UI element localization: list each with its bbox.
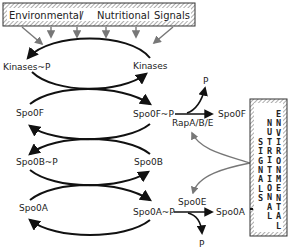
spo0e-dephosphorylation: P Spo0E Spo0A	[174, 197, 246, 249]
signal-arrow-icon	[22, 27, 42, 44]
node-spo0f-p: Spo0F~P	[133, 109, 174, 119]
banner-word-environmental: Environmental	[9, 10, 82, 21]
signal-arrow-icon	[154, 27, 173, 43]
arc-spo0f-return	[30, 124, 150, 139]
node-kinases: Kinases	[133, 61, 168, 71]
phosphorelay-diagram: Environmental / Nutritional Signals Kina…	[0, 0, 291, 251]
arrow-release-p-icon	[188, 213, 202, 233]
arc-kinases-return	[32, 72, 146, 89]
rap-product-spo0f: Spo0F	[218, 109, 246, 119]
signal-arrows	[22, 27, 173, 44]
side-box-signals-column: SIGNALS	[258, 137, 263, 203]
banner-word-signals: Signals	[154, 10, 190, 21]
spo0e-enzyme-label: Spo0E	[178, 197, 207, 207]
arc-spo0b-return	[30, 170, 148, 185]
arc-spo0f-phosphorylation	[30, 89, 150, 104]
node-spo0b: Spo0B	[134, 157, 163, 167]
side-box-letter: L	[276, 221, 281, 231]
arc-spo0a-phosphorylation	[30, 185, 150, 200]
banner-word-nutritional: Nutritional	[97, 10, 150, 21]
rap-dephosphorylation: P RapA/B/E Spo0F	[172, 76, 246, 128]
side-box-environmental-column: ENVIRONMENTAL	[276, 109, 282, 231]
released-phosphate-top: P	[203, 76, 209, 86]
node-spo0a: Spo0A	[19, 203, 49, 213]
rap-enzyme-label: RapA/B/E	[172, 118, 214, 128]
arc-spo0a-return	[30, 220, 150, 235]
arc-spo0b-phosphorylation	[30, 139, 150, 154]
released-phosphate-bottom: P	[199, 239, 205, 249]
signal-influence-arrows	[192, 133, 250, 193]
environmental-nutritional-signals-banner: Environmental / Nutritional Signals	[3, 3, 195, 26]
node-spo0a-p: Spo0A~P	[133, 207, 175, 217]
node-spo0f: Spo0F	[16, 108, 44, 118]
node-kinases-p: Kinases~P	[3, 62, 51, 72]
side-box-letter: S	[258, 193, 263, 203]
arc-kinases-phosphorylation	[28, 39, 150, 59]
node-spo0b-p: Spo0B~P	[16, 157, 58, 167]
signal-to-rap-arrow-icon	[192, 133, 250, 163]
side-box-letter: L	[267, 211, 272, 221]
spo0e-product-spo0a: Spo0A	[216, 207, 246, 217]
side-box-nutritional-column: NUTRITIONAL	[267, 118, 273, 221]
arrow-release-p-icon	[187, 88, 205, 113]
signal-to-spo0e-arrow-icon	[193, 163, 250, 193]
